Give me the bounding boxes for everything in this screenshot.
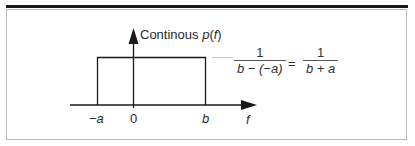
density-label: Continous p(f) bbox=[140, 28, 222, 41]
tick-label-b: b bbox=[202, 112, 209, 125]
rhs-fraction: 1 b + a bbox=[303, 46, 338, 76]
rhs-numerator: 1 bbox=[315, 46, 326, 60]
tick-label-zero: 0 bbox=[130, 112, 137, 125]
lhs-denominator: b − (−a) bbox=[234, 61, 286, 76]
lhs-fraction: 1 b − (−a) bbox=[234, 46, 286, 76]
x-axis-arrow-icon bbox=[241, 100, 257, 110]
x-axis-label: f bbox=[246, 113, 250, 126]
uniform-density-box bbox=[98, 58, 206, 106]
y-axis-arrow-icon bbox=[129, 28, 139, 44]
rhs-denominator: b + a bbox=[303, 61, 338, 76]
tick-label-neg-a: −a bbox=[89, 112, 104, 125]
paren-close: ) bbox=[217, 27, 221, 42]
lhs-numerator: 1 bbox=[254, 46, 265, 60]
density-label-text: Continous bbox=[140, 27, 202, 42]
equals-sign: = bbox=[288, 57, 296, 70]
